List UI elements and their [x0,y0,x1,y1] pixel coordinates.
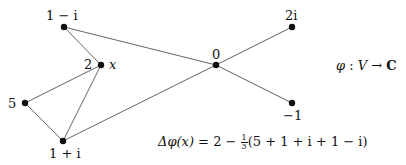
label-5: 5 [8,97,16,110]
label-minus-1: −1 [283,109,302,122]
edge-x-1pi [63,65,101,141]
arrow-icon: → [367,58,386,73]
label-0: 0 [212,48,220,61]
map-label: φ : V → C [336,59,397,72]
vertex-set-V: V [358,58,367,73]
edge-0-m1 [216,65,292,103]
edge-5-1pi [25,103,63,141]
formula-lhs: Δφ(x) [158,134,194,149]
formula-eq: = 2 − [194,134,241,149]
label-2i: 2i [285,9,297,22]
edge-0-2i [216,27,292,65]
fraction-one-third: 13 [241,134,248,151]
edge-1mi-x [64,27,101,65]
node-1-minus-i [61,24,67,30]
node-0 [213,62,219,68]
label-node-x-name: x [109,58,116,71]
complex-field-C: C [386,58,396,73]
formula-rhs: (5 + 1 + i + 1 − i) [248,134,368,149]
node-minus-1 [289,100,295,106]
label-node-x-value: 2 [84,58,92,71]
phi-symbol: φ [336,58,345,73]
label-1-plus-i: 1 + i [49,147,81,160]
colon: : [345,58,358,73]
node-5 [22,100,28,106]
node-1-plus-i [60,138,66,144]
node-x [98,62,104,68]
node-2i [289,24,295,30]
laplacian-formula: Δφ(x) = 2 − 13(5 + 1 + i + 1 − i) [158,134,368,151]
label-1-minus-i: 1 − i [46,9,78,22]
frac-denominator: 3 [241,143,248,151]
edge-1pi-0 [63,65,216,141]
